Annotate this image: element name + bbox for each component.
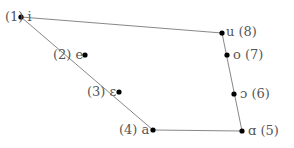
label-epsilon: (3) ε (87, 85, 116, 98)
label-u: u (8) (226, 25, 257, 38)
point-u (219, 30, 224, 35)
label-o: o (7) (233, 48, 263, 61)
point-open-o (231, 91, 236, 96)
label-e: (2) e (53, 48, 83, 61)
label-open-o: ɔ (6) (240, 87, 270, 100)
quadrilateral-outline (21, 17, 242, 131)
point-epsilon (116, 89, 121, 94)
point-o (224, 52, 229, 57)
label-i: (1) i (5, 10, 32, 23)
point-alpha (239, 128, 244, 133)
label-alpha: ɑ (5) (248, 124, 279, 137)
point-a (150, 127, 155, 132)
label-a: (4) a (119, 123, 149, 136)
